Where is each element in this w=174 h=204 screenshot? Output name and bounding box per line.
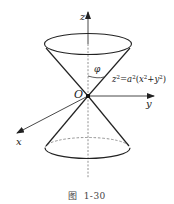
cone-figure: z y x O φ z2=a2(x2+y2) 图1-30: [0, 0, 174, 204]
angle-label: φ: [94, 64, 101, 74]
lower-cone-rim-front: [45, 148, 130, 159]
cone-diagram: z y x O φ z2=a2(x2+y2): [0, 0, 174, 204]
origin-point: [86, 94, 90, 98]
caption-prefix: 图: [68, 191, 78, 201]
lower-cone-rim-back: [45, 138, 130, 149]
lower-cone-left-generator: [46, 96, 88, 146]
caption-number: 1-30: [84, 191, 106, 201]
figure-caption: 图1-30: [0, 189, 174, 202]
x-axis-label: x: [16, 136, 22, 147]
z-axis-label: z: [79, 11, 86, 22]
y-axis-label: y: [145, 98, 152, 109]
angle-arc: [88, 76, 104, 78]
cone-equation: z2=a2(x2+y2): [111, 74, 166, 85]
origin-label: O: [74, 88, 83, 101]
x-axis: [17, 96, 88, 133]
lower-cone: [45, 96, 130, 159]
